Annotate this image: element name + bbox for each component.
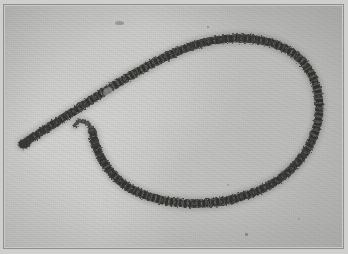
photographic-field <box>5 6 342 247</box>
plate-artifacts-layer <box>5 6 342 247</box>
artifact-dot-right <box>298 218 300 220</box>
artifact-dot-mid <box>227 184 229 186</box>
artifact-scratch-top <box>115 21 124 25</box>
plate-border-rule <box>3 4 344 249</box>
micrograph-figure: Grayscale micrograph of a long dark segm… <box>0 0 348 254</box>
artifact-dot-upper <box>207 26 209 28</box>
artifact-dot-lower <box>245 233 248 236</box>
